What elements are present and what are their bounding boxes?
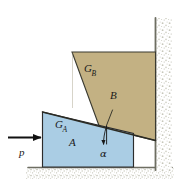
wall-hatching [156,18,172,171]
block-b-label: B [110,89,117,101]
angle-alpha-label: α [100,148,107,159]
wall-support [156,18,173,171]
figure-canvas: G B B G A A α p [0,0,177,180]
block-a-label: A [68,136,76,148]
block-a-centroid-subscript: A [62,125,68,134]
block-b-centroid-subscript: B [92,69,97,78]
ground-support [26,168,174,180]
mechanics-figure: G B B G A A α p [0,0,177,180]
ground-hatching [26,168,174,179]
force-label: p [18,146,25,158]
